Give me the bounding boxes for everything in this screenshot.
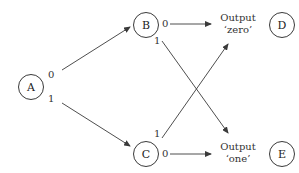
node-c: C (133, 141, 159, 167)
node-a-label: A (27, 81, 35, 94)
edge-label-c-one: 1 (154, 129, 160, 139)
node-c-label: C (142, 148, 150, 161)
edge-b-to-e (162, 41, 228, 133)
output-d-value: ‘zero’ (213, 24, 263, 36)
node-d: D (269, 12, 295, 38)
edge-label-b-one: 1 (154, 36, 160, 46)
edge-label-a-one: 1 (48, 94, 54, 104)
output-d-title: Output (213, 12, 263, 24)
edge-label-a-zero: 0 (48, 70, 54, 80)
node-e: E (269, 141, 295, 167)
edge-c-to-d (162, 44, 228, 138)
output-d: Output ‘zero’ (213, 12, 263, 36)
output-e-value: ‘one’ (213, 153, 263, 165)
output-e-title: Output (213, 141, 263, 153)
edge-label-c-zero: 0 (162, 149, 168, 159)
node-e-label: E (278, 148, 286, 161)
state-diagram: A B C D E 0 1 0 1 1 0 Output ‘zero’ Outp… (0, 0, 299, 173)
edge-label-b-zero: 0 (162, 19, 168, 29)
edge-a-to-b (62, 27, 130, 70)
node-b-label: B (142, 19, 150, 32)
node-d-label: D (278, 19, 287, 32)
node-a: A (18, 74, 44, 100)
edge-a-to-c (62, 103, 130, 146)
output-e: Output ‘one’ (213, 141, 263, 165)
